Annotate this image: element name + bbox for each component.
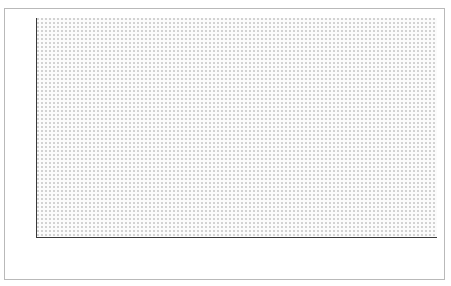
x-axis [36,239,437,286]
stacked-area-svg [37,18,437,238]
chart-title [0,0,451,1]
y-axis [0,18,34,238]
plot-area [36,18,437,238]
chart-screenshot [0,0,451,286]
